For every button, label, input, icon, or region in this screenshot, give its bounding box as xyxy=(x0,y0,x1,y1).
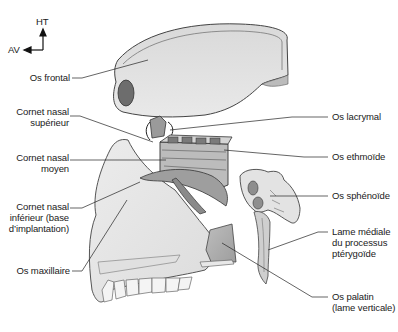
label-os-maxillaire: Os maxillaire xyxy=(16,265,70,276)
label-lame-mediale-pterygoide: Lame médiale du processus ptérygoïde xyxy=(332,226,390,259)
label-os-frontal: Os frontal xyxy=(30,72,70,83)
label-os-sphenoide: Os sphénoïde xyxy=(332,190,390,201)
label-cornet-nasal-inferieur: Cornet nasal inférieur (base d’implantat… xyxy=(9,201,69,234)
up-direction-label: HT xyxy=(36,16,48,27)
label-os-lacrymal: Os lacrymal xyxy=(332,111,381,122)
label-os-palatin: Os palatin (lame verticale) xyxy=(332,291,395,313)
frontal-bone xyxy=(114,24,288,117)
sphenoid-bone xyxy=(240,169,300,284)
anatomy-diagram: HT AV Os frontal Cornet nasal supérieur … xyxy=(0,0,398,332)
label-cornet-nasal-moyen: Cornet nasal moyen xyxy=(16,152,69,174)
front-direction-label: AV xyxy=(8,44,20,55)
orientation-arrows-icon xyxy=(24,29,46,53)
label-cornet-nasal-superieur: Cornet nasal supérieur xyxy=(16,106,69,128)
label-os-ethmoide: Os ethmoïde xyxy=(332,151,385,162)
